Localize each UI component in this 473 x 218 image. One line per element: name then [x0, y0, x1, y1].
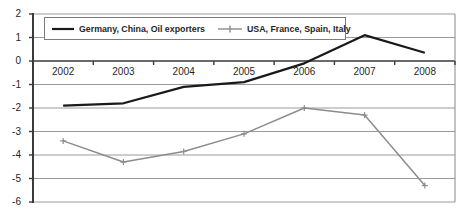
x-tick-label: 2003	[93, 66, 153, 78]
x-tick-label: 2004	[154, 66, 214, 78]
x-tick-label: 2002	[33, 66, 93, 78]
legend-label-series-2: USA, France, Spain, Italy	[247, 24, 351, 34]
x-tick-label: 2007	[335, 66, 395, 78]
x-tick-label: 2005	[214, 66, 274, 78]
x-tick-label: 2006	[274, 66, 334, 78]
y-tick-label: -3	[0, 126, 21, 138]
plus-marker-line-icon	[218, 24, 242, 34]
legend-label-series-1: Germany, China, Oil exporters	[79, 24, 205, 34]
solid-line-icon	[52, 24, 74, 34]
series-line-1	[63, 108, 425, 186]
y-tick-label: 0	[0, 55, 21, 67]
y-tick-label: -4	[0, 149, 21, 161]
line-chart: 210-1-2-3-4-5-6 200220032004200520062007…	[0, 0, 473, 218]
y-tick-label: 2	[0, 8, 21, 20]
legend-entry-series-2: USA, France, Spain, Italy	[218, 24, 351, 34]
legend: Germany, China, Oil exporters USA, Franc…	[44, 17, 346, 40]
y-tick-label: -1	[0, 79, 21, 91]
y-tick-label: -5	[0, 173, 21, 185]
y-tick-label: -2	[0, 102, 21, 114]
y-tick-label: -6	[0, 196, 21, 208]
y-tick-label: 1	[0, 32, 21, 44]
legend-entry-series-1: Germany, China, Oil exporters	[52, 24, 205, 34]
x-tick-label: 2008	[395, 66, 455, 78]
